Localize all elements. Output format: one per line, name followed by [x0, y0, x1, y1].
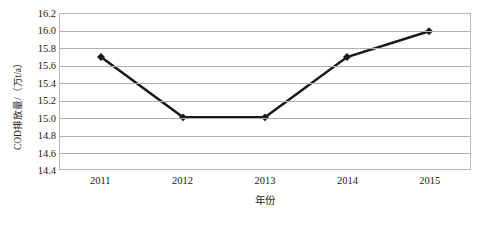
y-tick-label: 15.0 — [22, 112, 56, 123]
y-tick-label: 14.6 — [22, 147, 56, 158]
y-tick-label: 14.4 — [22, 165, 56, 176]
x-tick-label: 2011 — [90, 174, 111, 188]
series-polyline — [101, 31, 429, 117]
series-line-cod — [60, 14, 470, 169]
gridline — [60, 153, 470, 154]
y-axis-tick-labels: 16.216.015.815.615.415.215.014.814.614.4 — [22, 13, 56, 170]
x-tick-label: 2014 — [337, 174, 358, 188]
x-tick-label: 2012 — [172, 174, 193, 188]
y-tick-label: 15.6 — [22, 60, 56, 71]
y-tick-label: 16.0 — [22, 25, 56, 36]
x-axis-title: 年份 — [59, 194, 471, 208]
gridline — [60, 48, 470, 49]
gridline — [60, 136, 470, 137]
y-tick-label: 14.8 — [22, 130, 56, 141]
y-tick-label: 15.2 — [22, 95, 56, 106]
plot-area — [59, 13, 471, 170]
x-tick-label: 2013 — [255, 174, 276, 188]
gridline — [60, 101, 470, 102]
y-tick-label: 16.2 — [22, 8, 56, 19]
gridline — [60, 66, 470, 67]
gridline — [60, 31, 470, 32]
gridline — [60, 118, 470, 119]
y-tick-label: 15.4 — [22, 77, 56, 88]
gridline — [60, 83, 470, 84]
x-tick-label: 2015 — [419, 174, 440, 188]
x-axis-tick-labels: 20112012201320142015 — [59, 174, 471, 190]
line-chart: COD排放量/（万t/a） 16.216.015.815.615.415.215… — [0, 0, 484, 225]
y-tick-label: 15.8 — [22, 42, 56, 53]
